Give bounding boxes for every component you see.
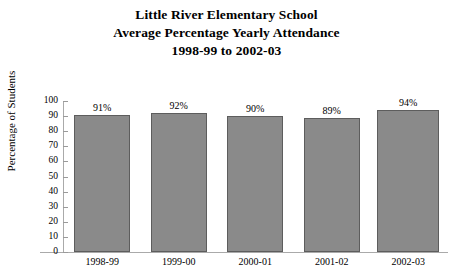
y-axis-tick	[63, 101, 68, 102]
y-axis-tick	[63, 207, 68, 208]
y-axis-tick-label: 40	[22, 187, 58, 197]
y-axis-tick-label: 10	[22, 232, 58, 242]
x-axis-category-label: 1998-99	[64, 256, 140, 268]
bar-chart-plot: Percentage of Students 10090807060504030…	[0, 0, 453, 280]
y-axis-tick-label: 0	[22, 247, 58, 257]
bar-value-label: 89%	[302, 105, 362, 116]
y-axis-tick-label: 70	[22, 141, 58, 151]
y-axis-tick-label: 80	[22, 126, 58, 136]
bar[interactable]	[227, 116, 283, 252]
y-axis-tick-label: 20	[22, 217, 58, 227]
bar-value-label: 91%	[72, 102, 132, 113]
y-axis-tick-label: 100	[22, 96, 58, 106]
bar-value-label: 92%	[149, 100, 209, 111]
bar[interactable]	[377, 110, 439, 252]
x-axis-category-label: 2001-02	[294, 256, 370, 268]
y-axis-tick	[63, 161, 68, 162]
bar-value-label: 94%	[378, 97, 438, 108]
bar[interactable]	[151, 113, 207, 252]
y-axis-tick	[63, 116, 68, 117]
bar-value-label: 90%	[225, 103, 285, 114]
y-axis-tick-label: 50	[22, 172, 58, 182]
x-axis-category-label: 1999-00	[141, 256, 217, 268]
y-axis-tick-label: 30	[22, 202, 58, 212]
y-axis-tick-label: 60	[22, 156, 58, 166]
y-axis-tick	[63, 131, 68, 132]
y-axis-tick	[63, 192, 68, 193]
bar[interactable]	[74, 115, 130, 252]
y-axis-title: Percentage of Students	[5, 49, 17, 194]
y-axis-tick-label: 90	[22, 111, 58, 121]
y-axis-tick	[63, 177, 68, 178]
y-axis-tick	[63, 146, 68, 147]
x-axis-category-label: 2000-01	[217, 256, 293, 268]
y-axis-tick	[63, 222, 68, 223]
bar[interactable]	[304, 118, 360, 252]
y-axis-tick	[63, 237, 68, 238]
y-axis-tick	[63, 252, 68, 253]
x-axis-line	[40, 252, 448, 253]
x-axis-category-label: 2002-03	[370, 256, 446, 268]
